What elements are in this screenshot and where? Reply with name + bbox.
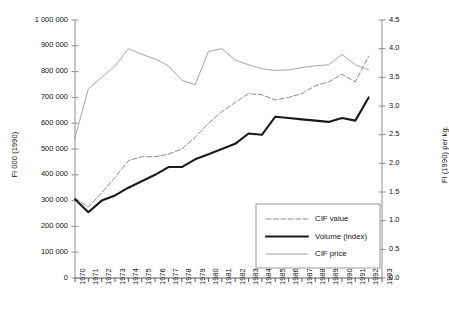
legend-label-0: CIF value bbox=[315, 214, 348, 223]
legend-label-1: Volume (index) bbox=[315, 232, 367, 241]
legend-label-2: CIF price bbox=[315, 249, 347, 258]
series-line-1 bbox=[75, 97, 369, 212]
series-line-2 bbox=[75, 49, 369, 138]
series-line-0 bbox=[75, 56, 369, 207]
